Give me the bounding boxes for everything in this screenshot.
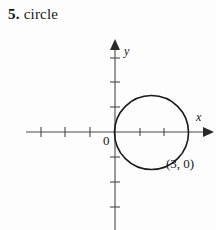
coordinate-plane-figure [0,0,216,230]
origin-label: 0 [103,133,110,149]
y-axis-label: y [124,44,129,59]
point-coordinate-label: (3, 0) [166,156,194,172]
figure-page: 5.circle y x 0 (3, 0) [0,0,216,230]
x-axis-arrow-icon [203,127,214,137]
y-axis-arrow-icon [110,39,120,50]
x-axis-label: x [196,110,201,125]
